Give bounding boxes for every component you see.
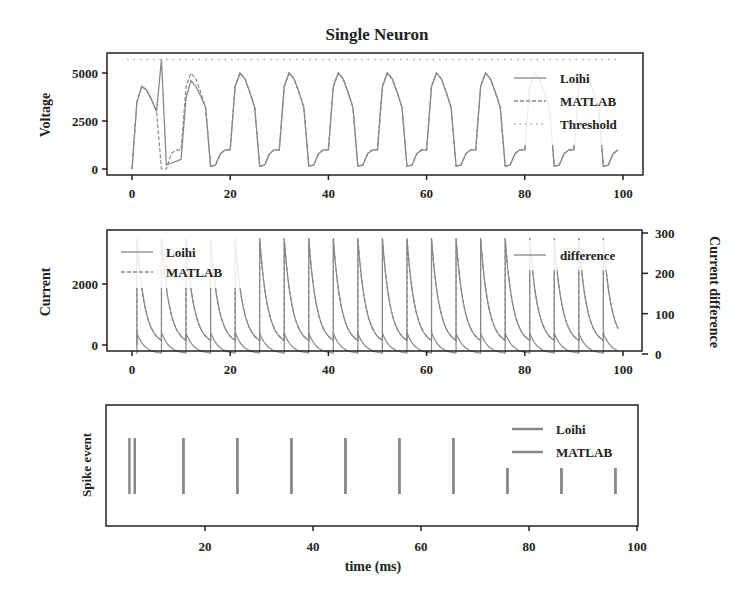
y-tick-right-label: 200 xyxy=(655,266,675,281)
x-tick-label: 40 xyxy=(322,362,335,377)
x-tick-label: 20 xyxy=(224,186,237,201)
current-difference-y-ticks: 0100200300 xyxy=(642,226,675,362)
x-tick-label: 60 xyxy=(420,186,433,201)
x-tick-label: 100 xyxy=(613,362,633,377)
x-tick-label: 80 xyxy=(523,539,536,554)
spike-x-ticks: 20406080100 xyxy=(199,526,647,554)
figure: Single Neuron 025005000 020406080100 Vol… xyxy=(0,0,754,601)
current-legend-box xyxy=(114,236,244,288)
legend-loihi-label: Loihi xyxy=(560,71,590,86)
x-tick-label: 0 xyxy=(129,186,136,201)
y-tick-right-label: 300 xyxy=(655,226,675,241)
x-tick-label: 80 xyxy=(518,362,531,377)
y-tick-label: 2000 xyxy=(72,277,98,292)
current-y-ticks: 02000 xyxy=(72,277,107,353)
x-tick-label: 20 xyxy=(224,362,237,377)
legend-matlab-label: MATLAB xyxy=(166,265,222,280)
figure-title: Single Neuron xyxy=(325,25,429,44)
y-tick-label: 0 xyxy=(92,338,99,353)
legend-difference-label: difference xyxy=(560,248,616,263)
current-panel: 02000 0100200300 020406080100 Current Cu… xyxy=(38,226,722,377)
legend-threshold-label: Threshold xyxy=(560,117,618,132)
spike-legend: Loihi MATLAB xyxy=(505,417,631,465)
y-tick-label: 5000 xyxy=(72,66,98,81)
x-tick-label: 100 xyxy=(627,539,647,554)
y-tick-label: 2500 xyxy=(72,114,98,129)
x-tick-label: 60 xyxy=(420,362,433,377)
spike-ylabel: Spike event xyxy=(79,432,94,497)
x-tick-label: 20 xyxy=(199,539,212,554)
legend-matlab-label: MATLAB xyxy=(556,445,612,460)
voltage-y-ticks: 025005000 xyxy=(72,66,107,177)
y-tick-right-label: 0 xyxy=(655,347,662,362)
current-ylabel: Current xyxy=(38,267,53,316)
current-difference-ylabel: Current difference xyxy=(707,236,722,348)
legend-matlab-label: MATLAB xyxy=(560,94,616,109)
x-tick-label: 40 xyxy=(322,186,335,201)
x-tick-label: 60 xyxy=(415,539,428,554)
spike-panel: 20406080100 Spike event time (ms) Loihi … xyxy=(79,405,647,575)
x-tick-label: 0 xyxy=(129,362,136,377)
voltage-x-ticks: 020406080100 xyxy=(129,175,633,201)
y-tick-right-label: 100 xyxy=(655,307,675,322)
x-tick-label: 100 xyxy=(613,186,633,201)
voltage-ylabel: Voltage xyxy=(38,93,53,138)
voltage-panel: 025005000 020406080100 Voltage Loihi MAT… xyxy=(38,53,643,201)
legend-loihi-label: Loihi xyxy=(556,422,586,437)
y-tick-label: 0 xyxy=(92,162,99,177)
x-tick-label: 80 xyxy=(518,186,531,201)
legend-loihi-label: Loihi xyxy=(166,245,196,260)
x-tick-label: 40 xyxy=(307,539,320,554)
current-x-ticks: 020406080100 xyxy=(129,351,633,377)
voltage-legend: Loihi MATLAB Threshold xyxy=(508,67,632,145)
xlabel: time (ms) xyxy=(345,559,402,575)
